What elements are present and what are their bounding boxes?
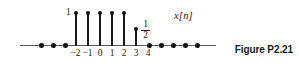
sample-dot bbox=[195, 43, 200, 48]
stem-head-dot-half bbox=[134, 27, 139, 32]
stem-plot: 1 1 2 −2 −1 0 1 2 3 4 x[n] bbox=[0, 0, 220, 69]
amplitude-label-one: 1 bbox=[66, 8, 71, 18]
sample-dot bbox=[63, 43, 68, 48]
stem-line bbox=[87, 13, 89, 46]
sample-dot bbox=[39, 43, 44, 48]
stem-head-dot bbox=[74, 11, 79, 16]
stem-line bbox=[111, 13, 113, 46]
stem-line bbox=[75, 13, 77, 46]
stem-head-dot bbox=[110, 11, 115, 16]
sample-dot bbox=[171, 43, 176, 48]
figure-container: 1 1 2 −2 −1 0 1 2 3 4 x[n] Figure P2.21 bbox=[0, 0, 299, 69]
stem-head-dot bbox=[98, 11, 103, 16]
stem-head-dot bbox=[122, 11, 127, 16]
amplitude-label-half: 1 2 bbox=[141, 20, 150, 40]
stem-line-half bbox=[135, 29, 137, 46]
stem-line bbox=[123, 13, 125, 46]
sample-dot bbox=[51, 43, 56, 48]
fraction-denominator: 2 bbox=[141, 31, 150, 40]
stem-line bbox=[99, 13, 101, 46]
sample-dot bbox=[159, 43, 164, 48]
figure-caption: Figure P2.21 bbox=[235, 44, 293, 55]
axis-tick-label: 4 bbox=[141, 49, 155, 59]
sample-dot bbox=[183, 43, 188, 48]
fraction-numerator: 1 bbox=[141, 20, 150, 29]
signal-name-label: x[n] bbox=[174, 11, 193, 22]
stem-head-dot bbox=[86, 11, 91, 16]
